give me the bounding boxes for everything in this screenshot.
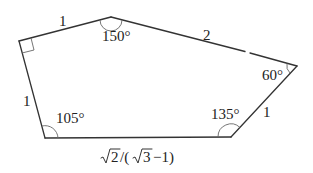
pentagon-diagram: 1 2 1 1 150° 60° 135° 105° 2 /( 3 −1) [0, 0, 313, 173]
sqrt-radicand-2: 2 [111, 149, 119, 165]
side-de [45, 137, 231, 138]
side-label-cd: 1 [263, 104, 271, 120]
sqrt-radicand-3: 3 [143, 149, 151, 165]
side-bc-part1 [111, 17, 245, 52]
angle-label-c: 60° [262, 67, 283, 83]
angle-label-b: 150° [102, 28, 131, 44]
side-label-bc: 2 [203, 27, 211, 43]
side-label-de: 2 /( 3 −1) [101, 149, 174, 166]
side-ea [19, 41, 45, 138]
slash-paren: /( [120, 149, 129, 166]
angle-label-e: 105° [56, 110, 85, 126]
side-label-ab: 1 [59, 13, 67, 29]
minus-one-paren: −1) [153, 149, 174, 166]
side-label-ea: 1 [23, 93, 31, 109]
side-bc-part2 [250, 53, 297, 66]
angle-arc-c [287, 64, 290, 74]
angle-label-d: 135° [211, 106, 240, 122]
